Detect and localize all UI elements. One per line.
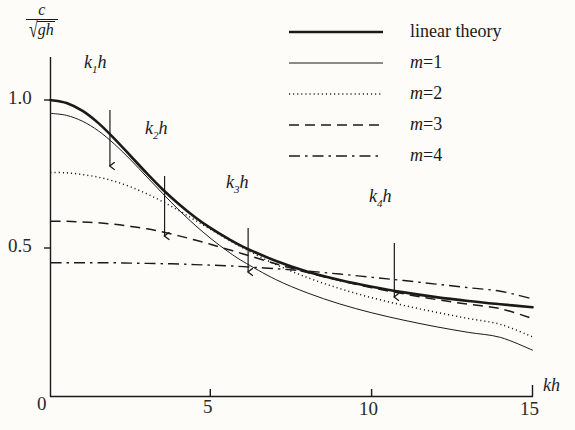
x-tick-label-10: 10 — [359, 398, 378, 420]
annotation-label-k3h: k3h — [226, 172, 249, 195]
figure-container: c √gh 0 5 10 15 — [0, 0, 575, 430]
y-tick-label-1: 1.0 — [8, 87, 32, 109]
legend-key-swatch — [288, 118, 384, 132]
annotation-label-k2h: k2h — [145, 118, 168, 141]
y-tick-label-0-5: 0.5 — [8, 235, 32, 257]
series-line-m-2 — [51, 173, 533, 337]
legend-label: m=3 — [384, 114, 442, 135]
legend-key-swatch — [288, 25, 384, 39]
legend-label: m=2 — [384, 83, 442, 104]
annotation-label-k4h: k4h — [369, 186, 392, 209]
legend-line-icon — [288, 25, 384, 39]
legend-item-m-3: m=3 — [288, 109, 568, 140]
legend-item-linear-theory: linear theory — [288, 16, 568, 47]
legend-line-icon — [288, 118, 384, 132]
legend-key-swatch — [288, 149, 384, 163]
legend-line-icon — [288, 87, 384, 101]
annotation-label-k1h: k1h — [84, 52, 107, 75]
legend-line-icon — [288, 56, 384, 70]
legend-label: linear theory — [384, 21, 501, 42]
legend-key-swatch — [288, 87, 384, 101]
x-tick-label-15: 15 — [520, 398, 539, 420]
legend-line-icon — [288, 149, 384, 163]
legend-label: m=4 — [384, 145, 442, 166]
legend-item-m-2: m=2 — [288, 78, 568, 109]
legend-item-m-1: m=1 — [288, 47, 568, 78]
legend-key-swatch — [288, 56, 384, 70]
legend-item-m-4: m=4 — [288, 140, 568, 171]
x-tick-label-0: 0 — [37, 393, 47, 415]
x-tick-label-5: 5 — [203, 396, 213, 418]
x-axis-label: kh — [543, 375, 560, 396]
legend: linear theorym=1m=2m=3m=4 — [288, 16, 568, 171]
legend-label: m=1 — [384, 52, 442, 73]
